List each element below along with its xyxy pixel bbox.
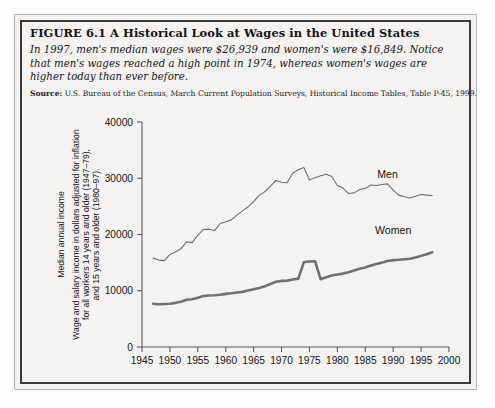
y-axis-tick-label: 10000 bbox=[105, 285, 134, 296]
y-axis-title-primary: Median annual income bbox=[56, 191, 66, 278]
x-axis-tick-label: 1980 bbox=[326, 355, 349, 366]
x-axis-tick-label: 2000 bbox=[438, 355, 461, 366]
figure-page: FIGURE 6.1 A Historical Look at Wages in… bbox=[0, 0, 495, 408]
y-axis-tick-label: 0 bbox=[127, 342, 133, 353]
y-axis-title-line: Wage and salary income in dollars adjust… bbox=[71, 129, 81, 340]
figure-caption: In 1997, men's median wages were $26,939… bbox=[30, 43, 450, 84]
y-axis-title-line: and 15 years and older (1980–97). bbox=[91, 169, 101, 301]
y-axis-title-line: for all workers 14 years and older (1947… bbox=[81, 149, 91, 320]
figure-source-label: Source: bbox=[30, 89, 62, 98]
y-axis-tick-label: 40000 bbox=[105, 117, 134, 128]
x-axis-tick-label: 1970 bbox=[270, 355, 293, 366]
series-label-women: Women bbox=[375, 224, 411, 236]
chart-container: 0100002000030000400001945195019551960196… bbox=[24, 104, 468, 376]
x-axis-tick-label: 1950 bbox=[159, 355, 182, 366]
wages-line-chart: 0100002000030000400001945195019551960196… bbox=[24, 104, 468, 376]
series-line-men bbox=[153, 168, 432, 261]
x-axis-tick-label: 1995 bbox=[410, 355, 433, 366]
x-axis-tick-label: 1945 bbox=[131, 355, 154, 366]
series-label-men: Men bbox=[377, 168, 398, 180]
y-axis-tick-label: 30000 bbox=[105, 173, 134, 184]
x-axis-tick-label: 1985 bbox=[354, 355, 377, 366]
figure-title: FIGURE 6.1 A Historical Look at Wages in… bbox=[30, 26, 460, 40]
figure-source: Source: U.S. Bureau of the Census, March… bbox=[30, 89, 460, 98]
figure-header: FIGURE 6.1 A Historical Look at Wages in… bbox=[30, 26, 460, 98]
x-axis-tick-label: 1965 bbox=[242, 355, 265, 366]
x-axis-tick-label: 1960 bbox=[214, 355, 237, 366]
figure-source-text: U.S. Bureau of the Census, March Current… bbox=[62, 89, 477, 98]
series-line-women bbox=[153, 252, 432, 304]
y-axis-tick-label: 20000 bbox=[105, 229, 134, 240]
x-axis-tick-label: 1975 bbox=[298, 355, 321, 366]
x-axis-tick-label: 1955 bbox=[186, 355, 209, 366]
x-axis-tick-label: 1990 bbox=[382, 355, 405, 366]
